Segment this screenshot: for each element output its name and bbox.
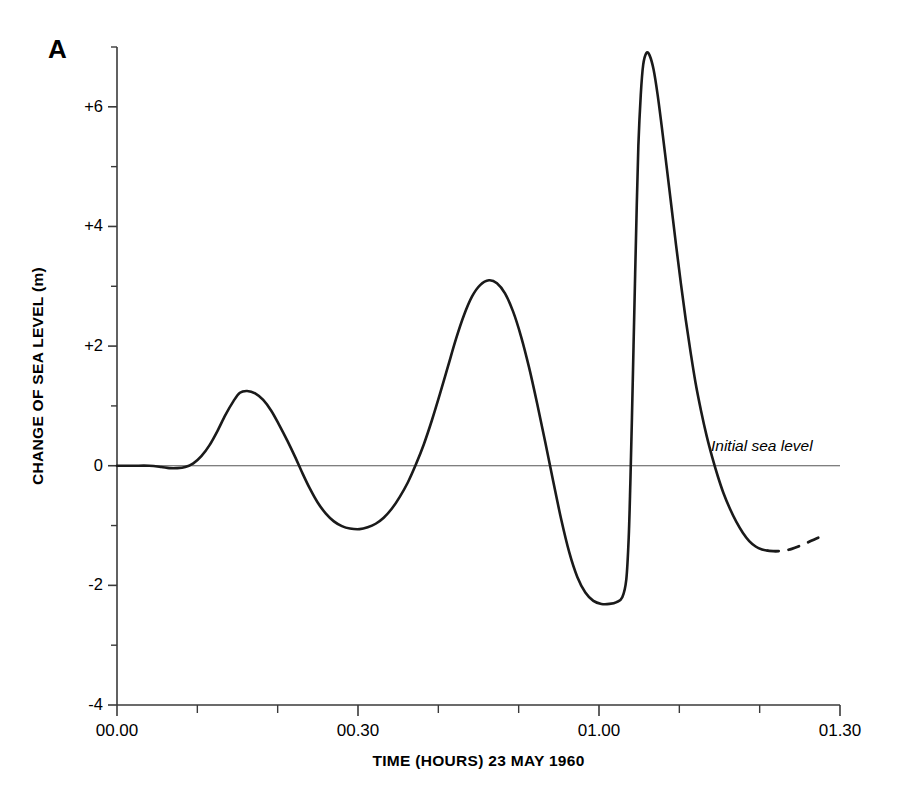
y-tick-label: +6 [57,98,103,115]
data-series-group [117,52,822,604]
y-tick-label: +4 [57,217,103,234]
y-tick-label: +2 [57,337,103,354]
series-line-0 [117,52,768,604]
y-axis-title: CHANGE OF SEA LEVEL (m) [29,226,47,526]
x-tick-label: 00.00 [62,722,172,739]
initial-sea-level-annotation: Initial sea level [711,437,813,455]
y-tick-label: -2 [57,576,103,593]
y-tick-label: -4 [57,696,103,713]
panel-label: A [48,36,67,62]
figure-panel-a: A CHANGE OF SEA LEVEL (m) TIME (HOURS) 2… [0,0,900,811]
x-tick-label: 01.00 [544,722,654,739]
line-chart-plot [0,0,900,811]
x-tick-label: 01.30 [785,722,895,739]
x-tick-label: 00.30 [303,722,413,739]
axes-group [108,47,840,716]
x-axis-title: TIME (HOURS) 23 MAY 1960 [117,752,840,770]
y-tick-label: 0 [57,457,103,474]
series-line-1 [768,536,823,551]
